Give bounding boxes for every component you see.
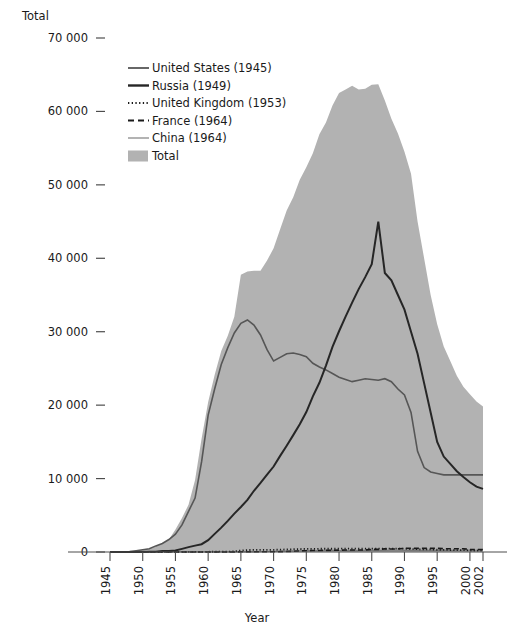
y-tick-label: 40 000 — [48, 251, 88, 265]
legend-label: Total — [151, 149, 179, 163]
legend-label: China (1964) — [152, 131, 227, 145]
legend-label: France (1964) — [152, 114, 232, 128]
x-tick-label: 1975 — [295, 566, 309, 595]
y-tick-label: 30 000 — [48, 325, 88, 339]
x-tick-label: 1990 — [393, 566, 407, 595]
x-tick-label: 1980 — [328, 566, 342, 595]
x-tick-label: 1960 — [197, 566, 211, 595]
y-tick-label: 50 000 — [48, 178, 88, 192]
y-tick-label: 60 000 — [48, 104, 88, 118]
x-tick-label: 2000 — [459, 566, 473, 595]
x-tick-label: 1965 — [230, 566, 244, 595]
x-tick-label: 1970 — [263, 566, 277, 595]
x-tick-label: 1945 — [99, 566, 113, 595]
x-tick-label: 2002 — [472, 566, 486, 595]
x-tick-label: 1995 — [426, 566, 440, 595]
y-axis-title: Total — [21, 9, 49, 23]
y-tick-label: 20 000 — [48, 398, 88, 412]
y-tick-label: 70 000 — [48, 31, 88, 45]
x-tick-label: 1950 — [132, 566, 146, 595]
legend-swatch-total — [128, 151, 148, 162]
y-tick-label: 10 000 — [48, 472, 88, 486]
nuclear-warheads-area-chart: Total 70 00060 00050 00040 00030 00020 0… — [0, 0, 515, 632]
x-axis-title: Year — [244, 611, 270, 625]
x-tick-label: 1955 — [164, 566, 178, 595]
legend-label: Russia (1949) — [152, 79, 231, 93]
chart-container: Total 70 00060 00050 00040 00030 00020 0… — [0, 0, 515, 632]
legend-label: United Kingdom (1953) — [152, 96, 286, 110]
x-tick-label: 1985 — [361, 566, 375, 595]
legend-label: United States (1945) — [152, 61, 272, 75]
